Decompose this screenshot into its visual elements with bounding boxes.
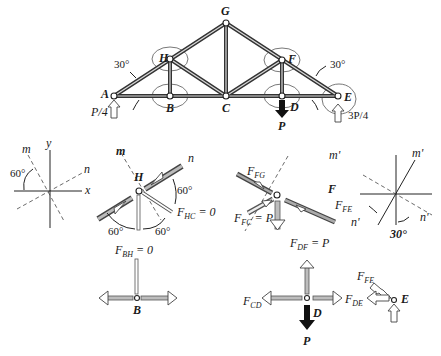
- truss-analysis-diagram: A B C D E F G H 30° 30° P/4 3P/4 P y x m…: [0, 0, 441, 356]
- n-prime-label-f: n': [351, 215, 360, 229]
- axes-right: m' n' 30°: [360, 146, 432, 241]
- joint-h-fbd: m n H 60° 60° 60° FHC = 0 FBH = 0: [98, 144, 216, 259]
- angle-pointer-left: [130, 72, 136, 78]
- m-prime-label: m': [412, 146, 424, 160]
- joint-d-fbd: P D FCD FDE: [242, 260, 363, 348]
- joint-e-fbd: E FFE: [356, 269, 409, 322]
- force-fg-label: FFG: [246, 164, 265, 180]
- joint-a-pin: [111, 93, 117, 99]
- angle-pointer: [369, 206, 377, 213]
- joint-h-label: H: [158, 51, 169, 65]
- angle-label: 60°: [10, 167, 25, 179]
- truss-members: [114, 23, 338, 96]
- force-bh-label: FBH = 0: [114, 243, 153, 259]
- n-prime-label: n': [420, 210, 429, 224]
- joint-f-label: F: [287, 52, 296, 66]
- m-axis-label: m: [22, 142, 31, 156]
- joint-g-pin: [223, 20, 229, 26]
- n-axis-label: n: [84, 162, 90, 176]
- joint-e-label: E: [400, 292, 409, 306]
- joint-h-label: H: [133, 170, 144, 184]
- angle-pointer-2: [398, 217, 409, 222]
- force-fc-label: FFC = P: [233, 211, 274, 227]
- joint-f-fbd: m' n' F FFG FFE FFC = P FDF = P: [233, 148, 360, 252]
- joint-c-label: C: [222, 101, 231, 115]
- reaction-e-label: 3P/4: [348, 109, 369, 121]
- axes-left: y x m n 60°: [10, 136, 91, 228]
- angle-pointer-right-base: [312, 100, 318, 110]
- force-fe-label: FFE: [334, 198, 352, 214]
- load-p-label: P: [303, 334, 311, 348]
- joint-d-label: D: [312, 306, 322, 320]
- joint-f-label: F: [327, 182, 336, 196]
- joint-e-pin: [335, 93, 341, 99]
- force-hc-label: FHC = 0: [176, 205, 216, 221]
- joint-b-pin: [167, 93, 173, 99]
- y-axis-label: y: [45, 136, 52, 150]
- angle-label-2: 60°: [108, 225, 123, 237]
- load-p-arrow-icon: [275, 100, 289, 118]
- angle-pointer-left-base: [133, 100, 139, 110]
- joint-c-pin: [223, 93, 229, 99]
- joint-d-label: D: [289, 100, 299, 114]
- joint-f-pin: [279, 57, 285, 63]
- joint-e-label: E: [343, 90, 352, 104]
- joint-b-fbd: B: [99, 259, 177, 317]
- truss: A B C D E F G H 30° 30° P/4 3P/4 P: [90, 4, 369, 133]
- angle-label: 30°: [389, 227, 407, 241]
- force-cd-label: FCD: [242, 294, 262, 310]
- m-axis-label-h: m: [116, 144, 125, 158]
- x-axis-label: x: [84, 183, 91, 197]
- reaction-a-label: P/4: [90, 105, 108, 119]
- angle-label-left: 30°: [114, 58, 129, 70]
- angle-label-right: 30°: [330, 58, 345, 70]
- angle-label-1: 60°: [177, 184, 192, 196]
- load-p-label: P: [278, 119, 286, 133]
- joint-g-label: G: [221, 4, 230, 18]
- m-prime-label-f: m': [329, 148, 341, 162]
- reaction-a-arrow-icon: [108, 100, 120, 118]
- angle-pointer-right: [316, 66, 326, 76]
- angle-label-3: 60°: [155, 225, 170, 237]
- force-de-label: FDE: [344, 292, 363, 308]
- n-axis-label-h: n: [188, 151, 194, 165]
- joint-b-label: B: [132, 303, 141, 317]
- joint-b-label: B: [165, 101, 174, 115]
- force-fe-label: FFE: [356, 269, 374, 285]
- force-df-label: FDF = P: [289, 236, 330, 252]
- joint-d-pin: [279, 93, 285, 99]
- joint-a-label: A: [100, 87, 109, 101]
- reaction-e-arrow-icon: [388, 304, 400, 322]
